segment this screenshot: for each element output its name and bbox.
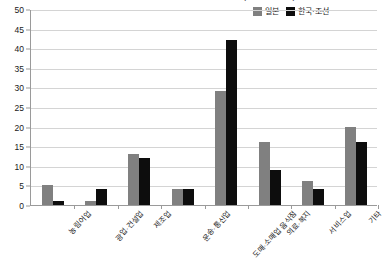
x-tick-label: 광업·건설업 [112, 208, 146, 243]
bar [270, 170, 281, 205]
bar [172, 189, 183, 205]
y-tick-label: 45 [0, 25, 24, 35]
bar [356, 142, 367, 205]
bar-group [248, 10, 291, 205]
y-tick-label: 0 [0, 201, 24, 211]
x-tick-label: 서비스업 [326, 208, 353, 236]
y-tick-label: 5 [0, 181, 24, 191]
y-tick-label: 40 [0, 44, 24, 54]
x-tick-mark [378, 205, 379, 209]
bar [42, 185, 53, 205]
plot-area [30, 10, 377, 206]
y-axis: 05101520253035404550 [0, 10, 30, 206]
y-tick-label: 10 [0, 162, 24, 172]
bar [53, 201, 64, 205]
x-axis-labels: 농림어업광업·건설업제조업운송·통신업도매·소매업 음식점의료·복지서비스업기타 [30, 208, 377, 265]
bar-chart: 〈그림 2〉 재일조선인 산업별 취업자 비율(2010년 기준) 일본한국·조… [0, 0, 383, 265]
y-tick-label: 25 [0, 103, 24, 113]
bar-group [74, 10, 117, 205]
x-tick-label: 운송·통신업 [199, 208, 233, 243]
bar [226, 40, 237, 205]
bar [313, 189, 324, 205]
bar-group [118, 10, 161, 205]
bar [139, 158, 150, 205]
bar-group [161, 10, 204, 205]
y-tick-label: 15 [0, 142, 24, 152]
bar-group [31, 10, 74, 205]
bar [85, 201, 96, 205]
y-tick-label: 20 [0, 123, 24, 133]
y-tick-label: 50 [0, 5, 24, 15]
bar [96, 189, 107, 205]
bar [345, 127, 356, 205]
y-tick-label: 35 [0, 64, 24, 74]
bar [302, 181, 313, 205]
bar-group [205, 10, 248, 205]
bar [259, 142, 270, 205]
chart-title: 〈그림 2〉 재일조선인 산업별 취업자 비율(2010년 기준) [0, 0, 383, 2]
y-tick-label: 30 [0, 83, 24, 93]
x-tick-label: 기타 [365, 208, 383, 226]
x-tick-label: 제조업 [150, 208, 172, 231]
bar-series-container [31, 10, 377, 205]
bar-group [335, 10, 378, 205]
bar [183, 189, 194, 205]
x-tick-label: 농림어업 [66, 208, 93, 236]
bar-group [291, 10, 334, 205]
bar [128, 154, 139, 205]
bar [215, 91, 226, 205]
